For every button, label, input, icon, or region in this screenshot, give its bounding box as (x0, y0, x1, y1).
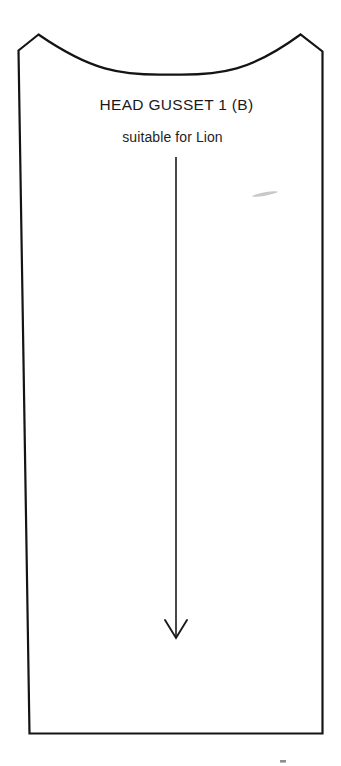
scan-speck-artifact (280, 760, 286, 763)
grain-line-arrow (165, 157, 187, 638)
pattern-sheet: HEAD GUSSET 1 (B) suitable for Lion (0, 0, 341, 766)
pattern-drawing-canvas (0, 0, 341, 766)
scan-streak-artifact (252, 190, 278, 198)
scan-artifacts-layer (252, 190, 286, 763)
